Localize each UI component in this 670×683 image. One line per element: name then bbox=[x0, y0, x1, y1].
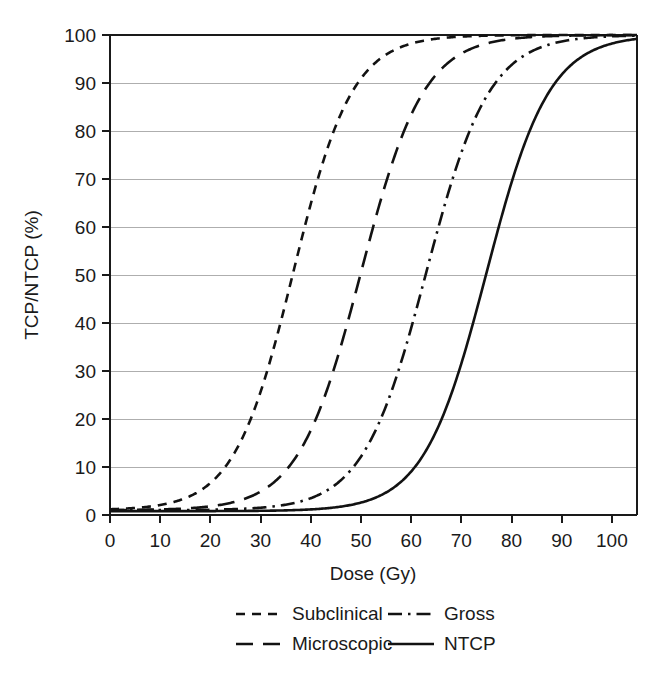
x-tick-label-80: 80 bbox=[501, 530, 522, 551]
x-tick-label-70: 70 bbox=[451, 530, 472, 551]
tcp-ntcp-dose-response-chart: 0102030405060708090100 01020304050607080… bbox=[0, 0, 670, 683]
x-tick-label-30: 30 bbox=[250, 530, 271, 551]
x-tick-label-10: 10 bbox=[150, 530, 171, 551]
x-tick-label-50: 50 bbox=[350, 530, 371, 551]
y-tick-label-10: 10 bbox=[75, 457, 96, 478]
legend-label-gross: Gross bbox=[444, 603, 495, 624]
gridlines-group bbox=[110, 35, 637, 467]
chart-legend: SubclinicalGrossMicroscopicNTCP bbox=[236, 603, 496, 654]
y-tick-label-30: 30 bbox=[75, 361, 96, 382]
x-tick-label-40: 40 bbox=[300, 530, 321, 551]
y-axis-title: TCP/NTCP (%) bbox=[21, 210, 42, 339]
tick-marks-group bbox=[102, 35, 612, 523]
x-tick-label-0: 0 bbox=[105, 530, 116, 551]
legend-label-ntcp: NTCP bbox=[444, 633, 496, 654]
y-tick-label-70: 70 bbox=[75, 169, 96, 190]
y-tick-label-20: 20 bbox=[75, 409, 96, 430]
x-tick-label-100: 100 bbox=[596, 530, 628, 551]
data-series-group bbox=[110, 35, 637, 511]
y-tick-label-40: 40 bbox=[75, 313, 96, 334]
x-tick-label-90: 90 bbox=[551, 530, 572, 551]
series-line-subclinical bbox=[110, 35, 637, 509]
x-tick-label-60: 60 bbox=[401, 530, 422, 551]
y-tick-label-0: 0 bbox=[85, 505, 96, 526]
y-tick-label-80: 80 bbox=[75, 121, 96, 142]
chart-figure: 0102030405060708090100 01020304050607080… bbox=[0, 0, 670, 683]
y-tick-labels-group: 0102030405060708090100 bbox=[64, 25, 96, 526]
series-line-microscopic bbox=[110, 35, 637, 510]
legend-label-microscopic: Microscopic bbox=[292, 633, 392, 654]
x-axis-title: Dose (Gy) bbox=[330, 563, 417, 584]
y-tick-label-90: 90 bbox=[75, 73, 96, 94]
y-tick-label-50: 50 bbox=[75, 265, 96, 286]
x-tick-labels-group: 0102030405060708090100 bbox=[105, 530, 628, 551]
x-tick-label-20: 20 bbox=[200, 530, 221, 551]
y-tick-label-100: 100 bbox=[64, 25, 96, 46]
legend-label-subclinical: Subclinical bbox=[292, 603, 383, 624]
series-line-gross bbox=[110, 36, 637, 511]
y-tick-label-60: 60 bbox=[75, 217, 96, 238]
